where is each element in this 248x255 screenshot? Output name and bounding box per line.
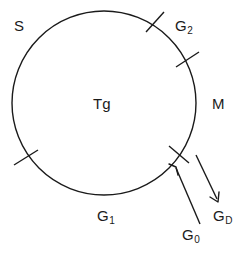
center-label-tg: Tg [93, 96, 111, 111]
arrow-label-gd-subscript: D [225, 215, 232, 226]
phase-label-g2: G2 [175, 18, 192, 33]
arrowhead-g0 [169, 164, 178, 175]
arrow-label-g0: G0 [182, 227, 199, 242]
phase-label-m: M [212, 96, 225, 111]
arrow-label-g0-subscript: 0 [194, 234, 200, 245]
phase-label-g2-base: G [175, 17, 187, 34]
tick-mark-m-end [169, 146, 189, 163]
phase-label-g1-subscript: 1 [109, 215, 115, 226]
arrow-label-g0-base: G [182, 226, 194, 243]
arrow-label-gd-base: G [213, 207, 225, 224]
cell-cycle-diagram: S G2 M Tg G1 G0 GD [0, 0, 248, 255]
arrow-label-gd: GD [213, 208, 232, 223]
phase-label-s: S [14, 18, 24, 33]
arrow-g0 [169, 164, 200, 224]
arrow-gd [196, 155, 219, 202]
phase-label-g2-subscript: 2 [187, 25, 193, 36]
cell-cycle-svg [0, 0, 248, 255]
phase-label-g1-base: G [97, 207, 109, 224]
phase-label-g1: G1 [97, 208, 114, 223]
